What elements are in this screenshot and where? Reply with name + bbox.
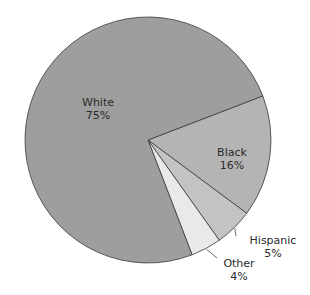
label-other-name: Other bbox=[216, 257, 262, 270]
label-black-pct: 16% bbox=[207, 159, 257, 172]
label-white-name: White bbox=[73, 96, 123, 109]
label-white-pct: 75% bbox=[73, 109, 123, 122]
leader-line-hispanic bbox=[235, 229, 236, 236]
label-white: White 75% bbox=[73, 96, 123, 122]
label-other-pct: 4% bbox=[216, 270, 262, 283]
label-other: Other 4% bbox=[216, 257, 262, 283]
label-hispanic-name: Hispanic bbox=[241, 234, 305, 247]
label-black: Black 16% bbox=[207, 146, 257, 172]
label-black-name: Black bbox=[207, 146, 257, 159]
